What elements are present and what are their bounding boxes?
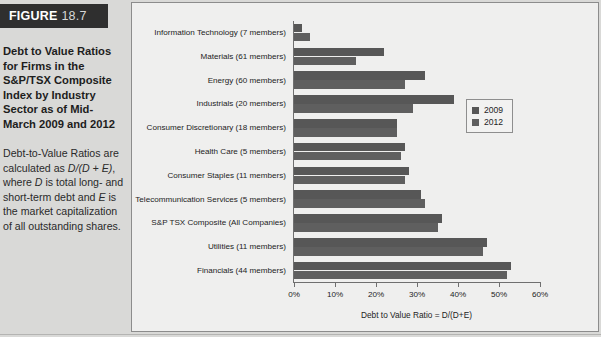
category-axis-label: Information Technology (7 members) <box>132 21 292 45</box>
bar-2012 <box>294 199 425 208</box>
bar-2012 <box>294 80 405 89</box>
bar-group <box>294 45 540 69</box>
category-axis-label: Energy (60 members) <box>132 69 292 93</box>
bar-2012 <box>294 152 401 161</box>
chart-plot-wrapper: Information Technology (7 members)Materi… <box>132 3 600 333</box>
x-axis-title: Debt to Value Ratio = D/(D+E) <box>293 310 540 320</box>
x-axis-tick <box>499 282 500 287</box>
x-axis-tick <box>417 282 418 287</box>
x-axis-tick-label: 30% <box>409 290 425 299</box>
bar-group <box>294 259 540 283</box>
bar-2012 <box>294 57 356 66</box>
category-axis-label: Industrials (20 members) <box>132 92 292 116</box>
category-axis-label: Consumer Discretionary (18 members) <box>132 116 292 140</box>
bar-2009 <box>294 214 442 223</box>
bar-2009 <box>294 71 425 80</box>
bar-group <box>294 21 540 45</box>
bar-2012 <box>294 104 413 113</box>
bar-2009 <box>294 24 302 33</box>
category-axis-label: Financials (44 members) <box>132 259 292 283</box>
x-axis-tick-label: 50% <box>491 290 507 299</box>
legend-entry: 2009 <box>472 104 503 116</box>
chart-legend: 20092012 <box>466 99 513 133</box>
category-axis-label: S&P TSX Composite (All Companies) <box>132 211 292 235</box>
figure-description: Debt-to-Value Ratios are calculated as D… <box>3 146 127 234</box>
legend-entry: 2012 <box>472 116 503 128</box>
category-axis-label: Materials (61 members) <box>132 45 292 69</box>
figure-page: FIGURE 18.7 Debt to Value Ratios for Fir… <box>0 0 601 337</box>
x-axis-tick-label: 0% <box>288 290 300 299</box>
x-axis-tick <box>335 282 336 287</box>
x-axis-tick-label: 20% <box>368 290 384 299</box>
x-axis-tick <box>540 282 541 287</box>
page-bottom-rule <box>0 334 601 335</box>
legend-label: 2009 <box>484 105 503 115</box>
x-axis-tick <box>294 282 295 287</box>
description-formula: D/(D + E) <box>68 162 112 174</box>
bar-2009 <box>294 48 384 57</box>
bar-group <box>294 69 540 93</box>
bar-2009 <box>294 262 511 271</box>
x-axis-tick-label: 40% <box>450 290 466 299</box>
bar-2009 <box>294 143 405 152</box>
bar-2009 <box>294 167 409 176</box>
bar-2012 <box>294 33 310 42</box>
figure-title: Debt to Value Ratios for Firms in the S&… <box>3 44 125 132</box>
bar-2009 <box>294 95 454 104</box>
bar-2012 <box>294 271 507 280</box>
bar-plot-area: 0%10%20%30%40%50%60% <box>293 21 540 283</box>
chart-panel: Information Technology (7 members)Materi… <box>131 2 599 332</box>
x-axis-tick-label: 10% <box>327 290 343 299</box>
x-axis-tick <box>376 282 377 287</box>
bar-2009 <box>294 190 421 199</box>
legend-square-swatch-icon <box>472 107 479 114</box>
bar-2009 <box>294 238 487 247</box>
bar-2012 <box>294 176 405 185</box>
figure-caption-column: FIGURE 18.7 Debt to Value Ratios for Fir… <box>0 0 130 337</box>
category-axis-label: Health Care (5 members) <box>132 140 292 164</box>
category-axis-labels: Information Technology (7 members)Materi… <box>132 21 292 283</box>
figure-label-badge: FIGURE 18.7 <box>0 4 108 28</box>
category-axis-label: Telecommunication Services (5 members) <box>132 188 292 212</box>
bar-2012 <box>294 247 483 256</box>
figure-label-word: FIGURE <box>9 9 57 23</box>
figure-number: 18.7 <box>61 9 86 23</box>
x-axis-tick-label: 60% <box>532 290 548 299</box>
category-axis-label: Consumer Staples (11 members) <box>132 164 292 188</box>
bar-group <box>294 211 540 235</box>
bar-group <box>294 140 540 164</box>
legend-label: 2012 <box>484 117 503 127</box>
bar-group <box>294 188 540 212</box>
category-axis-label: Utilities (11 members) <box>132 235 292 259</box>
bar-group <box>294 164 540 188</box>
bar-group <box>294 235 540 259</box>
bar-2012 <box>294 128 397 137</box>
bar-2012 <box>294 223 438 232</box>
x-axis-tick <box>458 282 459 287</box>
legend-square-swatch-icon <box>472 119 479 126</box>
bar-2009 <box>294 119 397 128</box>
